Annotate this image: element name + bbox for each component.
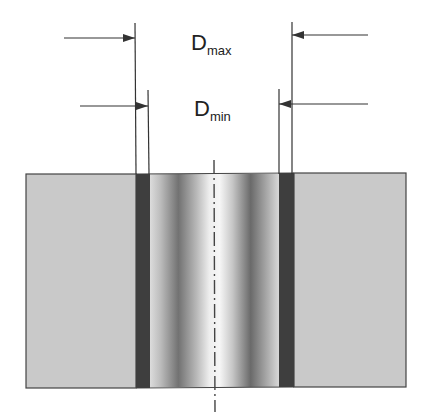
dmin-label: Dmin: [194, 96, 231, 124]
dmin-dimension: Dmin: [80, 89, 368, 174]
dmax-label: Dmax: [191, 30, 232, 58]
bore-top-edge: [136, 173, 294, 174]
left-coating-band: [136, 174, 150, 388]
right-coating-band: [279, 173, 294, 387]
right-block: [294, 173, 406, 387]
dmax-left-extension-line: [135, 23, 136, 174]
dmin-left-extension-line: [148, 90, 149, 174]
bore-diameter-diagram: Dmax Dmin: [0, 0, 423, 417]
dmax-dimension: Dmax: [64, 22, 368, 174]
left-block: [26, 174, 136, 388]
